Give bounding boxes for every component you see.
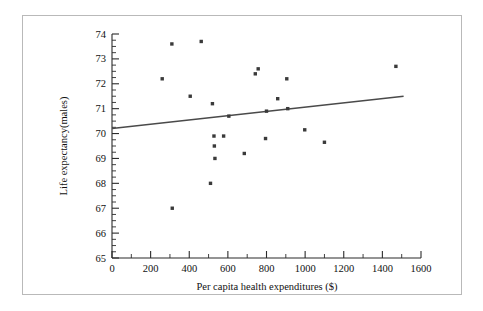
x-tick-label: 1200 bbox=[333, 263, 354, 274]
data-point bbox=[171, 207, 174, 210]
y-axis-minor-ticks bbox=[112, 40, 116, 252]
x-tick-label: 1600 bbox=[411, 263, 432, 274]
y-axis-tick-labels: 65666768697071727374 bbox=[96, 29, 107, 264]
trend-line-group bbox=[112, 96, 404, 128]
data-point bbox=[256, 67, 259, 70]
data-point bbox=[276, 97, 279, 100]
data-point bbox=[213, 157, 216, 160]
data-point bbox=[264, 137, 267, 140]
y-axis-group: 65666768697071727374 Life expectancy(mal… bbox=[58, 29, 119, 264]
data-point bbox=[212, 134, 215, 137]
data-point bbox=[222, 134, 225, 137]
data-point bbox=[189, 95, 192, 98]
figure-frame: 65666768697071727374 Life expectancy(mal… bbox=[22, 15, 462, 295]
data-point bbox=[211, 102, 214, 105]
x-tick-label: 600 bbox=[220, 263, 236, 274]
x-axis-title: Per capita health expenditures ($) bbox=[196, 281, 338, 293]
data-point bbox=[170, 42, 173, 45]
x-tick-label: 1400 bbox=[372, 263, 393, 274]
data-point bbox=[286, 107, 289, 110]
x-tick-label: 400 bbox=[181, 263, 197, 274]
y-tick-label: 67 bbox=[96, 203, 107, 214]
y-tick-label: 69 bbox=[96, 153, 107, 164]
data-point bbox=[209, 182, 212, 185]
y-tick-label: 70 bbox=[96, 128, 107, 139]
y-tick-label: 66 bbox=[96, 228, 107, 239]
data-point bbox=[265, 109, 268, 112]
y-tick-label: 73 bbox=[96, 53, 107, 64]
x-tick-label: 1000 bbox=[295, 263, 316, 274]
data-point bbox=[285, 77, 288, 80]
data-point bbox=[213, 144, 216, 147]
data-point bbox=[394, 65, 397, 68]
y-tick-label: 74 bbox=[96, 29, 107, 40]
scatter-plot: 65666768697071727374 Life expectancy(mal… bbox=[23, 16, 463, 296]
y-axis-title: Life expectancy(males) bbox=[58, 96, 70, 195]
data-point bbox=[200, 40, 203, 43]
data-point bbox=[227, 114, 230, 117]
data-point bbox=[254, 72, 257, 75]
x-axis-group: 02004006008001000120014001600 Per capita… bbox=[109, 251, 431, 293]
data-point bbox=[161, 77, 164, 80]
y-tick-label: 71 bbox=[96, 103, 107, 114]
data-points-group bbox=[161, 40, 398, 210]
x-tick-label: 800 bbox=[259, 263, 275, 274]
x-axis-major-ticks bbox=[112, 251, 421, 258]
data-point bbox=[323, 141, 326, 144]
data-point bbox=[303, 128, 306, 131]
y-tick-label: 65 bbox=[96, 253, 107, 264]
x-tick-label: 0 bbox=[109, 263, 114, 274]
x-tick-label: 200 bbox=[143, 263, 159, 274]
regression-line bbox=[112, 96, 404, 128]
y-tick-label: 68 bbox=[96, 178, 107, 189]
x-axis-tick-labels: 02004006008001000120014001600 bbox=[109, 263, 431, 274]
data-point bbox=[243, 152, 246, 155]
y-tick-label: 72 bbox=[96, 78, 107, 89]
